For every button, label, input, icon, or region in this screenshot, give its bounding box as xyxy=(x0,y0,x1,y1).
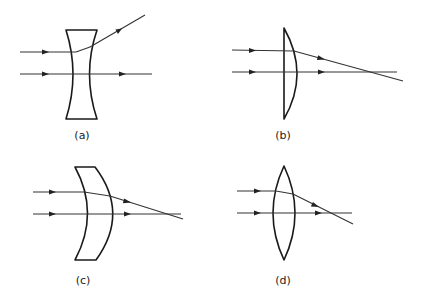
ray-upper-inside xyxy=(276,191,293,194)
plano-convex-lens xyxy=(284,28,297,119)
panel-d xyxy=(237,166,353,260)
panel-label-a: (a) xyxy=(74,129,89,142)
panel-b xyxy=(232,28,403,119)
arrow-icon xyxy=(49,190,56,195)
arrow-icon xyxy=(315,211,322,216)
arrow-icon xyxy=(254,211,261,216)
ray-upper-converging xyxy=(293,194,353,224)
panel-label-b: (b) xyxy=(275,129,291,142)
panel-c xyxy=(33,167,183,260)
panel-a xyxy=(20,15,152,119)
ray-upper-converging xyxy=(294,51,403,81)
arrow-icon xyxy=(249,48,256,53)
arrow-icon xyxy=(318,70,325,75)
ray-upper-converging xyxy=(110,196,183,219)
arrow-icon xyxy=(124,212,131,217)
arrow-icon xyxy=(116,29,123,34)
lens-ray-diagram xyxy=(0,0,422,290)
arrow-icon xyxy=(311,202,319,207)
ray-upper-inside xyxy=(84,192,110,196)
arrow-icon xyxy=(254,189,261,194)
panel-label-d: (d) xyxy=(275,274,291,287)
arrow-icon xyxy=(119,72,126,77)
arrow-icon xyxy=(123,198,131,203)
arrow-icon xyxy=(317,55,325,60)
arrow-icon xyxy=(42,50,49,55)
arrow-icon xyxy=(249,70,256,75)
panel-label-c: (c) xyxy=(76,274,91,287)
arrow-icon xyxy=(42,72,49,77)
ray-upper-inside xyxy=(76,47,90,52)
arrow-icon xyxy=(49,212,56,217)
